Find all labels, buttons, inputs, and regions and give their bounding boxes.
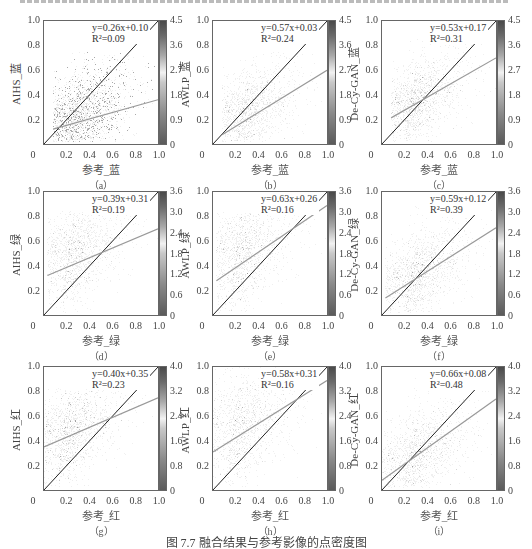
plot-area: y=0.59x+0.12 R²=0.39 — [381, 191, 497, 316]
x-tick-label: 1.0 — [487, 150, 507, 160]
y-tick-label: 0.4 — [354, 261, 378, 271]
y-tick-label: 0.8 — [354, 40, 378, 50]
r-squared: R²=0.39 — [430, 204, 486, 215]
x-tick-label: 0.8 — [126, 496, 146, 506]
x-tick-label: 0.6 — [103, 496, 123, 506]
plot-area: y=0.39x+0.31 R²=0.19 — [43, 191, 159, 316]
y-tick-label: 1.0 — [354, 361, 378, 371]
x-tick-label: 0.6 — [441, 321, 461, 331]
x-tick-label: 1.0 — [318, 496, 338, 506]
colorbar — [159, 20, 167, 145]
x-tick-label: 1.0 — [149, 321, 169, 331]
x-tick-label: 0.4 — [79, 150, 99, 160]
y-tick-label: 1.0 — [354, 186, 378, 196]
y-tick-label: 0.4 — [16, 436, 40, 446]
x-tick-label: 0.2 — [394, 496, 414, 506]
y-tick-label: 1.0 — [354, 15, 378, 25]
y-tick-label: 0.8 — [185, 211, 209, 221]
subplot-label: （a） — [43, 177, 159, 192]
density-scatter-panel-a: y=0.26x+0.10 R²=0.09 AIHS_蓝 参考_蓝 （a） 00.… — [0, 20, 170, 190]
regression-annotation: y=0.40x+0.35 R²=0.23 — [90, 368, 150, 390]
colorbar-tick: 0.9 — [508, 115, 521, 125]
regression-annotation: y=0.26x+0.10 R²=0.09 — [90, 22, 150, 44]
colorbar-tick: 3.2 — [508, 386, 521, 396]
colorbar — [497, 191, 505, 316]
regression-annotation: y=0.39x+0.31 R²=0.19 — [90, 193, 150, 215]
y-tick-label: 0.4 — [185, 90, 209, 100]
x-axis-label: 参考_绿 — [381, 332, 497, 348]
x-tick-label: 0.6 — [272, 150, 292, 160]
x-tick-label: 0.8 — [295, 496, 315, 506]
y-tick-label: 0.4 — [185, 436, 209, 446]
y-tick-label: 0.6 — [16, 411, 40, 421]
colorbar-tick: 0 — [508, 311, 513, 321]
y-tick-label: 0.2 — [16, 286, 40, 296]
regression-equation: y=0.59x+0.12 — [430, 193, 486, 204]
plot-area: y=0.66x+0.08 R²=0.48 — [381, 366, 497, 491]
subplot-label: （f） — [381, 348, 497, 363]
x-tick-label: 0.8 — [295, 321, 315, 331]
colorbar — [328, 366, 336, 491]
x-tick-label: 0.4 — [248, 321, 268, 331]
colorbar-tick: 0.6 — [508, 290, 521, 300]
y-tick-label: 0.8 — [185, 40, 209, 50]
x-tick-label: 0.8 — [464, 150, 484, 160]
regression-equation: y=0.39x+0.31 — [92, 193, 148, 204]
plot-area: y=0.63x+0.26 R²=0.16 — [212, 191, 328, 316]
y-tick-label: 0.8 — [16, 386, 40, 396]
x-tick-label: 0 — [361, 496, 381, 506]
x-tick-label: 0.8 — [464, 321, 484, 331]
x-tick-label: 0 — [23, 150, 43, 160]
y-tick-label: 1.0 — [16, 15, 40, 25]
density-scatter-panel-f: y=0.59x+0.12 R²=0.39 De-Cy-GAN_绿 参考_绿 （f… — [338, 191, 508, 361]
x-tick-label: 0.4 — [79, 321, 99, 331]
regression-equation: y=0.66x+0.08 — [430, 368, 486, 379]
x-tick-label: 0.2 — [225, 150, 245, 160]
y-tick-label: 0.6 — [185, 65, 209, 75]
colorbar — [497, 20, 505, 145]
r-squared: R²=0.24 — [261, 33, 317, 44]
regression-annotation: y=0.57x+0.03 R²=0.24 — [259, 22, 319, 44]
x-tick-label: 0.2 — [394, 150, 414, 160]
r-squared: R²=0.23 — [92, 379, 148, 390]
density-scatter-panel-g: y=0.40x+0.35 R²=0.23 AIHS_红 参考_红 （g） 00.… — [0, 366, 170, 536]
x-tick-label: 1.0 — [149, 496, 169, 506]
y-tick-label: 0.2 — [16, 461, 40, 471]
colorbar — [159, 366, 167, 491]
x-tick-label: 0.8 — [126, 150, 146, 160]
cropped-text-line — [20, 0, 510, 3]
x-tick-label: 0.2 — [394, 321, 414, 331]
r-squared: R²=0.48 — [430, 379, 486, 390]
y-tick-label: 0.6 — [185, 236, 209, 246]
y-tick-label: 0.4 — [16, 90, 40, 100]
x-tick-label: 0.4 — [417, 496, 437, 506]
plot-area: y=0.57x+0.03 R²=0.24 — [212, 20, 328, 145]
r-squared: R²=0.16 — [261, 379, 317, 390]
colorbar-tick: 1.2 — [508, 269, 521, 279]
plot-area: y=0.58x+0.31 R²=0.16 — [212, 366, 328, 491]
x-tick-label: 0.6 — [441, 150, 461, 160]
colorbar-tick: 2.4 — [508, 411, 521, 421]
x-tick-label: 0.2 — [225, 321, 245, 331]
x-tick-label: 0.6 — [103, 321, 123, 331]
colorbar-tick: 3.0 — [508, 207, 521, 217]
colorbar-tick: 2.7 — [508, 65, 521, 75]
y-tick-label: 0.4 — [16, 261, 40, 271]
density-scatter-panel-c: y=0.53x+0.17 R²=0.31 De-Cy-GAN_蓝 参考_蓝 （c… — [338, 20, 508, 190]
regression-annotation: y=0.59x+0.12 R²=0.39 — [428, 193, 488, 215]
x-tick-label: 0.4 — [79, 496, 99, 506]
regression-equation: y=0.63x+0.26 — [261, 193, 317, 204]
x-tick-label: 0 — [23, 496, 43, 506]
x-axis-label: 参考_红 — [43, 507, 159, 523]
colorbar — [328, 20, 336, 145]
r-squared: R²=0.31 — [430, 33, 486, 44]
y-tick-label: 1.0 — [185, 186, 209, 196]
x-tick-label: 0.6 — [103, 150, 123, 160]
y-tick-label: 0.4 — [354, 90, 378, 100]
y-tick-label: 1.0 — [16, 361, 40, 371]
x-axis-label: 参考_蓝 — [212, 161, 328, 177]
x-tick-label: 0.2 — [56, 321, 76, 331]
x-axis-label: 参考_蓝 — [43, 161, 159, 177]
regression-equation: y=0.40x+0.35 — [92, 368, 148, 379]
y-tick-label: 1.0 — [185, 15, 209, 25]
